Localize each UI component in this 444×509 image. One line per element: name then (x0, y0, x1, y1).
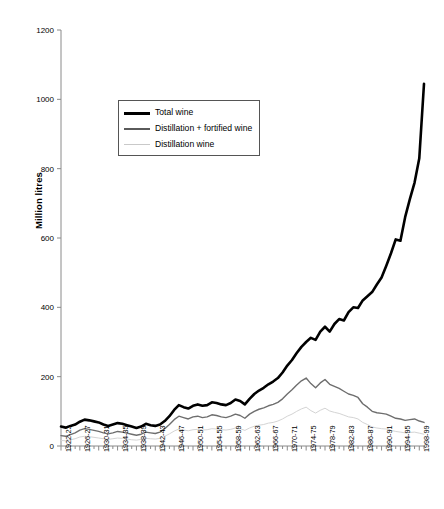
x-tick-label: 1926-27 (83, 426, 92, 452)
x-tick-label: 1942-43 (158, 426, 167, 452)
x-tick-label: 1970-71 (290, 426, 299, 452)
x-tick-label: 1994-95 (403, 426, 412, 452)
y-tick-label: 1200 (36, 26, 54, 35)
x-tick-label: 1990-91 (385, 426, 394, 452)
chart-legend: Total wineDistillation + fortified wineD… (118, 100, 260, 156)
x-tick-label: 1986-87 (366, 426, 375, 452)
x-tick-label: 1930-31 (102, 426, 111, 452)
y-tick-label: 200 (41, 373, 55, 382)
legend-item: Total wine (119, 104, 253, 120)
x-tick-label: 1922-23 (64, 426, 73, 452)
y-tick-label: 600 (41, 234, 55, 243)
legend-line-swatch (124, 123, 150, 133)
x-tick-label: 1974-75 (309, 426, 318, 452)
x-tick-label: 1982-83 (347, 426, 356, 452)
x-tick-label: 1958-59 (234, 426, 243, 452)
legend-label: Total wine (155, 107, 193, 117)
x-tick-label: 1962-63 (253, 426, 262, 452)
x-tick-label: 1946-47 (177, 426, 186, 452)
y-tick-label: 800 (41, 165, 55, 174)
x-tick-label: 1978-79 (328, 426, 337, 452)
x-tick-label: 1966-67 (271, 426, 280, 452)
legend-line-swatch (124, 107, 150, 117)
x-tick-label: 1938-39 (139, 426, 148, 452)
legend-label: Distillation + fortified wine (155, 123, 252, 133)
x-axis-tick-labels: 1922-231926-271930-311934-351938-391942-… (0, 450, 444, 509)
wine-production-line-chart: Million litres 020040060080010001200 192… (0, 0, 444, 509)
y-tick-label: 1000 (36, 95, 54, 104)
legend-label: Distillation wine (155, 139, 214, 149)
x-tick-label: 1954-55 (215, 426, 224, 452)
x-tick-label: 1934-35 (121, 426, 130, 452)
x-tick-label: 1950-51 (196, 426, 205, 452)
legend-item: Distillation wine (119, 136, 253, 152)
y-tick-label: 400 (41, 303, 55, 312)
legend-item: Distillation + fortified wine (119, 120, 253, 136)
x-tick-label: 1998-99 (422, 426, 431, 452)
legend-line-swatch (124, 139, 150, 149)
